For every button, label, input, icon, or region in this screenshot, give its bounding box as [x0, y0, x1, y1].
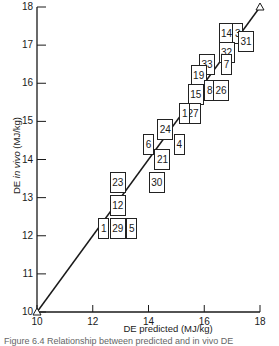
- x-axis-title: DE predicted (MJ/kg): [98, 323, 238, 334]
- data-point-box: 30: [149, 172, 165, 193]
- x-tick-label: 18: [250, 316, 270, 327]
- y-axis-title: DE in vivo (MJ/kg): [11, 96, 22, 216]
- triangle-marker-end-icon: [256, 3, 264, 10]
- data-point-box: 29: [110, 218, 126, 239]
- y-tick-label: 16: [13, 77, 33, 88]
- figure-caption: Figure 6.4 Relationship between predicte…: [4, 336, 233, 346]
- y-tick-label: 12: [13, 230, 33, 241]
- data-point-box: 31: [238, 31, 254, 52]
- data-point-box: 6: [143, 134, 154, 155]
- data-point-box: 5: [126, 218, 137, 239]
- data-point-box: 21: [154, 149, 170, 170]
- data-point-box: 1: [179, 103, 190, 124]
- y-tick-label: 18: [13, 1, 33, 12]
- data-point-box: 24: [157, 119, 173, 140]
- data-point-box: 15: [188, 84, 204, 105]
- data-point-box: 23: [110, 172, 126, 193]
- y-tick-label: 11: [13, 268, 33, 279]
- data-point-box: 4: [174, 134, 185, 155]
- data-point-box: 12: [110, 195, 126, 216]
- data-point-box: 26: [213, 80, 229, 101]
- data-point-box: 1: [98, 218, 109, 239]
- y-tick-label: 17: [13, 39, 33, 50]
- data-point-box: 7: [221, 54, 232, 75]
- x-tick-label: 10: [27, 316, 47, 327]
